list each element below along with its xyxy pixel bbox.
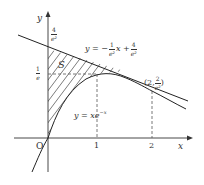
label-4-over-e2: 4 e² bbox=[51, 27, 57, 42]
diagram-canvas bbox=[0, 0, 204, 185]
y-axis-arrow-icon bbox=[46, 11, 51, 17]
y-axis-label: y bbox=[37, 14, 42, 23]
x-axis-label: x bbox=[178, 142, 183, 151]
tangent-equation: y = − 1 e² x + 4 e² bbox=[85, 42, 137, 57]
hatching bbox=[0, 40, 142, 160]
region-label-s: S bbox=[58, 60, 65, 70]
x-axis-arrow-icon bbox=[187, 136, 193, 141]
x-tick-2: 2 bbox=[149, 142, 154, 150]
origin-label: O bbox=[36, 142, 43, 151]
point-label: (2, 2 e² ) bbox=[144, 76, 164, 91]
function-equation: y = xe−x bbox=[74, 110, 107, 120]
x-tick-1: 1 bbox=[94, 142, 99, 150]
label-1-over-e: 1 e bbox=[36, 66, 40, 81]
